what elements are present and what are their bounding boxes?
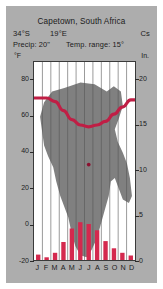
climate-card: Capetown, South Africa 34°S 19°E Cs Prec…: [6, 6, 157, 283]
left-axis-caption: °F: [14, 52, 21, 59]
precip-bar: [129, 256, 133, 261]
y-tick-label-right: 5: [139, 211, 159, 218]
precip-bar: [36, 255, 40, 260]
city-marker-dot: [87, 163, 91, 167]
precip-bar: [53, 253, 57, 260]
koppen-code-label: Cs: [141, 29, 150, 38]
y-tick-mark-left: [30, 152, 34, 153]
y-tick-label-right: 15: [139, 120, 159, 127]
y-tick-mark-left: [30, 116, 34, 117]
right-axis-caption: In.: [141, 52, 149, 59]
precip-bar: [78, 222, 82, 260]
y-tick-mark-right: [135, 170, 139, 171]
y-tick-label-left: 0: [9, 220, 29, 227]
y-tick-label-left: 60: [9, 111, 29, 118]
month-axis-labels: JFMAMJJASOND: [33, 263, 136, 275]
precip-bar: [70, 229, 74, 261]
latitude-label: 34°S: [13, 29, 30, 38]
precip-bar: [87, 224, 91, 260]
month-label: D: [127, 263, 137, 272]
plot-data-layer: [34, 62, 135, 260]
coordinates-row: 34°S 19°E Cs: [6, 29, 157, 39]
y-tick-mark-left: [30, 225, 34, 226]
precip-total-label: Precip: 20": [13, 40, 50, 49]
precip-bar: [103, 241, 107, 260]
precip-bar: [120, 253, 124, 260]
page-title: Capetown, South Africa: [6, 17, 157, 26]
y-tick-mark-left: [30, 188, 34, 189]
y-tick-mark-left: [30, 261, 34, 262]
y-tick-mark-right: [135, 79, 139, 80]
y-tick-label-left: 80: [9, 75, 29, 82]
temp-range-label: Temp. range: 15°: [66, 40, 124, 49]
temperature-line: [34, 98, 135, 127]
y-tick-mark-right: [135, 261, 139, 262]
precip-bar: [95, 230, 99, 260]
y-tick-label-right: 0: [139, 257, 159, 264]
climate-plot-area: [33, 61, 136, 261]
y-tick-mark-left: [30, 79, 34, 80]
y-tick-label-left: -20: [9, 257, 29, 264]
y-tick-mark-right: [135, 216, 139, 217]
longitude-label: 19°E: [50, 29, 67, 38]
y-tick-label-left: 20: [9, 184, 29, 191]
precip-bar: [61, 242, 65, 260]
y-tick-label-left: 40: [9, 147, 29, 154]
precip-bar: [112, 248, 116, 260]
precip-bar: [44, 257, 48, 260]
summary-row: Precip: 20" Temp. range: 15°: [6, 40, 157, 50]
y-tick-mark-right: [135, 125, 139, 126]
y-tick-label-right: 20: [139, 75, 159, 82]
y-tick-label-right: 10: [139, 166, 159, 173]
